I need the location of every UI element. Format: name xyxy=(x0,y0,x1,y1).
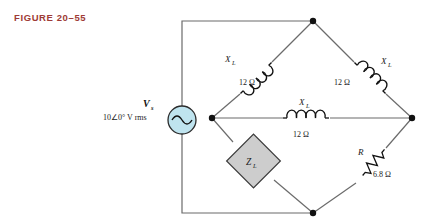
inductor-bridge-subscript: L xyxy=(305,102,310,109)
inductor-top-right-symbol: X xyxy=(380,56,387,66)
inductor-bridge-symbol: X xyxy=(298,97,305,107)
outer-loop-wires xyxy=(182,21,313,213)
circuit-schematic: V s 10∠0° V rms X L 12 Ω xyxy=(0,0,433,221)
circuit-diagram: FIGURE 20–55 xyxy=(0,0,433,221)
source-value: 10∠0° V rms xyxy=(103,113,147,122)
inductor-top-right-value: 12 Ω xyxy=(334,78,350,87)
load-symbol: Z xyxy=(246,157,252,167)
bridge-arm-wires xyxy=(212,21,412,213)
inductor-icon xyxy=(283,110,329,118)
inductor-top-left-symbol: X xyxy=(224,54,231,64)
resistor-symbol: R xyxy=(357,147,364,157)
resistor-value: 6.8 Ω xyxy=(373,170,391,179)
load-subscript: L xyxy=(252,162,257,169)
ac-source xyxy=(168,101,196,139)
inductor-top-left-value: 12 Ω xyxy=(239,78,255,87)
source-subscript: s xyxy=(150,104,154,111)
inductor-bridge-value: 12 Ω xyxy=(293,130,309,139)
node-top xyxy=(310,18,316,24)
source-symbol: V xyxy=(143,98,151,109)
node-left xyxy=(209,115,215,121)
load-box-icon xyxy=(227,134,281,188)
node-right xyxy=(409,115,415,121)
inductor-top-right-subscript: L xyxy=(387,61,392,68)
inductor-top-left-subscript: L xyxy=(231,59,236,66)
load-box xyxy=(227,134,281,188)
node-bottom xyxy=(310,210,316,216)
inductor-bridge xyxy=(283,110,329,118)
